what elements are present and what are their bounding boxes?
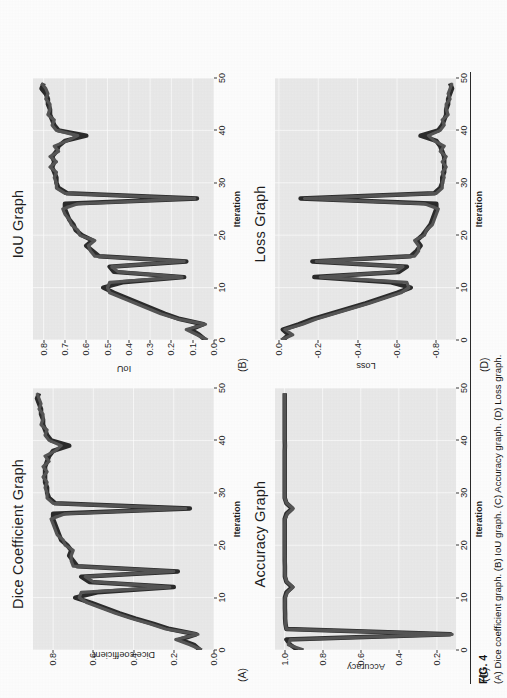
y-tick-mark bbox=[318, 340, 319, 343]
y-tick-label: 0.8 bbox=[39, 343, 49, 356]
xlabel-iou: Iteration bbox=[232, 78, 242, 340]
y-tick-label: 0.8 bbox=[48, 653, 58, 666]
x-tick-label: 0 bbox=[459, 647, 469, 652]
y-tick-label: 0.3 bbox=[145, 343, 155, 356]
panel-title-accuracy: Accuracy Graph bbox=[252, 384, 268, 684]
y-tick-label: 0.4 bbox=[394, 653, 404, 666]
ylabel-wrap-loss: Loss bbox=[275, 358, 456, 374]
y-tick-mark bbox=[357, 340, 358, 343]
x-tick-mark bbox=[456, 130, 459, 131]
x-tick-label: 40 bbox=[217, 125, 227, 135]
x-tick-mark bbox=[214, 287, 217, 288]
y-tick-label: -0.8 bbox=[431, 343, 441, 359]
x-tick-mark bbox=[214, 182, 217, 183]
panel-title-loss: Loss Graph bbox=[252, 74, 268, 374]
y-tick-mark bbox=[128, 340, 129, 343]
y-tick-label: -0.6 bbox=[392, 343, 402, 359]
y-tick-mark bbox=[133, 650, 134, 653]
y-tick-mark bbox=[86, 340, 87, 343]
x-tick-mark bbox=[456, 650, 459, 651]
panel-accuracy: Accuracy Graph Accuracy 0.20.40.60.81.00… bbox=[252, 384, 490, 684]
plot-svg-iou bbox=[33, 78, 214, 340]
xlabel-accuracy: Iteration bbox=[474, 388, 484, 650]
panel-title-iou: IoU Graph bbox=[10, 74, 26, 374]
x-tick-mark bbox=[214, 340, 217, 341]
y-tick-label: -0.2 bbox=[313, 343, 323, 359]
x-tick-mark bbox=[214, 545, 217, 546]
x-tick-mark bbox=[214, 388, 217, 389]
x-tick-mark bbox=[456, 597, 459, 598]
x-tick-mark bbox=[456, 340, 459, 341]
series-line-train bbox=[285, 393, 451, 650]
panel-dice-coefficient: Dice Coefficient Graph Dice coefficient … bbox=[10, 384, 248, 684]
panel-tag-a: (A) bbox=[236, 668, 248, 682]
x-tick-mark bbox=[456, 388, 459, 389]
x-tick-label: 50 bbox=[217, 73, 227, 83]
y-tick-mark bbox=[171, 340, 172, 343]
plot-svg-loss bbox=[275, 78, 456, 340]
y-tick-label: 0.6 bbox=[356, 653, 366, 666]
plot-area-iou: 0.00.10.20.30.40.50.60.70.801020304050 bbox=[33, 78, 214, 340]
x-tick-label: 50 bbox=[459, 383, 469, 393]
x-tick-label: 20 bbox=[459, 540, 469, 550]
ylabel-wrap-iou: IoU bbox=[33, 358, 214, 374]
panel-title-dice: Dice Coefficient Graph bbox=[10, 384, 26, 684]
y-tick-mark bbox=[150, 340, 151, 343]
y-tick-mark bbox=[436, 650, 437, 653]
y-tick-mark bbox=[93, 650, 94, 653]
x-tick-label: 40 bbox=[217, 435, 227, 445]
caption-divider bbox=[470, 72, 471, 684]
x-tick-label: 10 bbox=[217, 283, 227, 293]
y-tick-label: 0.6 bbox=[81, 343, 91, 356]
x-tick-mark bbox=[456, 287, 459, 288]
x-tick-mark bbox=[214, 235, 217, 236]
panel-tag-d: (D) bbox=[478, 357, 490, 372]
y-tick-mark bbox=[322, 650, 323, 653]
ylabel-iou: IoU bbox=[116, 364, 130, 374]
y-tick-mark bbox=[43, 340, 44, 343]
y-tick-label: 0.2 bbox=[166, 343, 176, 356]
ylabel-wrap-dice: Dice coefficient bbox=[33, 668, 214, 684]
y-tick-label: 0.6 bbox=[88, 653, 98, 666]
panel-loss: Loss Graph Loss -0.8-0.6-0.4-0.20.001020… bbox=[252, 74, 490, 374]
x-tick-label: 20 bbox=[217, 540, 227, 550]
x-tick-mark bbox=[214, 440, 217, 441]
x-tick-mark bbox=[456, 78, 459, 79]
x-tick-mark bbox=[456, 440, 459, 441]
figure-number: FIG. 4 bbox=[477, 655, 489, 684]
y-tick-mark bbox=[64, 340, 65, 343]
y-tick-mark bbox=[436, 340, 437, 343]
x-tick-mark bbox=[456, 235, 459, 236]
y-tick-label: 0.2 bbox=[432, 653, 442, 666]
x-tick-label: 20 bbox=[459, 230, 469, 240]
x-tick-label: 50 bbox=[459, 73, 469, 83]
series-line-validation bbox=[285, 393, 452, 650]
series-line-train bbox=[37, 393, 200, 650]
y-tick-mark bbox=[53, 650, 54, 653]
plot-svg-dice bbox=[33, 388, 214, 650]
x-tick-label: 10 bbox=[459, 283, 469, 293]
x-tick-mark bbox=[214, 78, 217, 79]
x-tick-mark bbox=[456, 492, 459, 493]
y-tick-label: -0.4 bbox=[353, 343, 363, 359]
series-line-train bbox=[42, 83, 206, 340]
y-tick-mark bbox=[398, 650, 399, 653]
y-tick-mark bbox=[173, 650, 174, 653]
xlabel-loss: Iteration bbox=[474, 78, 484, 340]
ylabel-loss: Loss bbox=[356, 361, 375, 371]
plot-area-accuracy: 0.20.40.60.81.001020304050 bbox=[275, 388, 456, 650]
xlabel-dice: Iteration bbox=[232, 388, 242, 650]
plot-svg-accuracy bbox=[275, 388, 456, 650]
panel-iou: IoU Graph IoU 0.00.10.20.30.40.50.60.70.… bbox=[10, 74, 248, 374]
x-tick-mark bbox=[456, 182, 459, 183]
y-tick-mark bbox=[278, 340, 279, 343]
plot-area-loss: -0.8-0.6-0.4-0.20.001020304050 bbox=[275, 78, 456, 340]
y-tick-label: 0.0 bbox=[274, 343, 284, 356]
x-tick-label: 0 bbox=[217, 337, 227, 342]
x-tick-label: 20 bbox=[217, 230, 227, 240]
y-tick-mark bbox=[192, 340, 193, 343]
y-tick-label: 1.0 bbox=[280, 653, 290, 666]
x-tick-label: 30 bbox=[217, 178, 227, 188]
figure-area: Dice Coefficient Graph Dice coefficient … bbox=[0, 0, 507, 698]
x-tick-label: 40 bbox=[459, 435, 469, 445]
